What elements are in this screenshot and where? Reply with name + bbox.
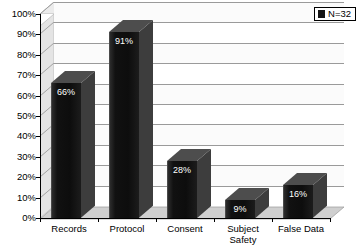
bar: 28% [167, 149, 197, 218]
grid-line [54, 22, 344, 23]
y-axis-line [40, 14, 41, 219]
y-axis-tick-label: 10% [0, 193, 36, 203]
bar-value-label: 16% [283, 190, 313, 199]
y-axis-tick-label: 60% [0, 91, 36, 101]
y-axis-tick-mark [36, 136, 40, 137]
grid-line [54, 84, 344, 85]
grid-line [54, 145, 344, 146]
grid-line [54, 124, 344, 125]
x-axis-tick-mark [40, 218, 41, 222]
bar-top-face [109, 20, 153, 32]
bar-front-face [51, 83, 81, 218]
grid-band [54, 125, 344, 144]
y-axis-tick-label: 70% [0, 70, 36, 80]
y-axis-tick-mark [36, 55, 40, 56]
bar-side-face [139, 20, 153, 218]
x-axis-category-label-line: False Data [266, 224, 336, 235]
grid-line-connector [40, 22, 54, 34]
y-axis-tick-label: 90% [0, 29, 36, 39]
bar: 16% [283, 173, 313, 218]
grid-line [54, 43, 344, 44]
grid-line [54, 63, 344, 64]
bar-side-face [81, 71, 95, 218]
bar-chart: 0%10%20%30%40%50%60%70%80%90%100% 66%91%… [0, 0, 362, 250]
bar-value-label: 91% [109, 37, 139, 46]
y-axis-tick-label: 30% [0, 152, 36, 162]
y-axis-tick-mark [36, 96, 40, 97]
bar-top-face [51, 71, 95, 83]
legend-swatch-icon [318, 10, 325, 18]
bar: 66% [51, 71, 81, 218]
x-axis-tick-mark [272, 218, 273, 222]
x-axis-category-label: False Data [266, 224, 336, 235]
bar-value-label: 9% [225, 205, 255, 214]
x-axis-line [40, 218, 331, 219]
chart-legend: N=32 [314, 7, 356, 21]
y-axis-tick-label: 0% [0, 213, 36, 223]
x-axis-category-label-line: Safety [208, 235, 278, 246]
bar-top-face [167, 149, 211, 161]
grid-band [54, 23, 344, 42]
grid-line [54, 104, 344, 105]
grid-band [54, 64, 344, 83]
y-axis-tick-mark [36, 198, 40, 199]
grid-line-connector [40, 2, 54, 14]
bar: 9% [225, 188, 255, 218]
y-axis-tick-label: 80% [0, 50, 36, 60]
y-axis-tick-mark [36, 14, 40, 15]
y-axis-tick-mark [36, 177, 40, 178]
bar-value-label: 28% [167, 166, 197, 175]
grid-band [54, 44, 344, 63]
y-axis-tick-label: 50% [0, 111, 36, 121]
grid-line-connector [40, 43, 54, 55]
y-axis-tick-mark [36, 157, 40, 158]
legend-label: N=32 [328, 9, 351, 19]
plot-area: 66%91%28%9%16% [40, 2, 346, 232]
bar-top-face [283, 173, 327, 185]
y-axis-tick-label: 100% [0, 9, 36, 19]
x-axis-tick-mark [214, 218, 215, 222]
grid-band [54, 85, 344, 104]
bar-top-face [225, 188, 269, 200]
grid-band [54, 3, 344, 22]
bar: 91% [109, 20, 139, 218]
x-axis-tick-mark [330, 218, 331, 222]
x-axis-tick-mark [98, 218, 99, 222]
bar-value-label: 66% [51, 88, 81, 97]
x-axis-tick-mark [156, 218, 157, 222]
bar-front-face [109, 32, 139, 218]
grid-band [54, 105, 344, 124]
y-axis-tick-mark [36, 34, 40, 35]
y-axis-tick-label: 20% [0, 172, 36, 182]
grid-line [54, 2, 344, 3]
y-axis-tick-mark [36, 116, 40, 117]
y-axis-tick-mark [36, 75, 40, 76]
y-axis-tick-label: 40% [0, 131, 36, 141]
